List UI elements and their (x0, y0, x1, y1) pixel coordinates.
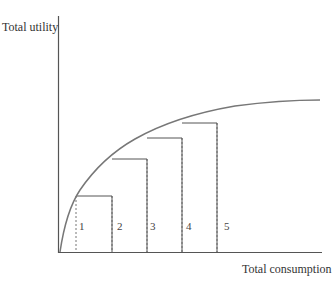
unit-label-4: 4 (186, 220, 192, 232)
utility-diagram (0, 0, 335, 282)
x-axis-label: Total consumption (242, 262, 331, 277)
unit-label-2: 2 (117, 220, 123, 232)
unit-label-1: 1 (79, 220, 85, 232)
marginal-utility-steps (76, 123, 217, 252)
unit-label-5: 5 (224, 220, 230, 232)
unit-label-3: 3 (150, 220, 156, 232)
y-axis-label: Total utility (2, 20, 58, 35)
